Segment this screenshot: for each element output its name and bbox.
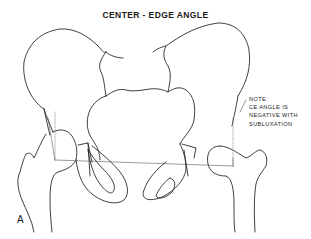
left-femur (18, 130, 77, 232)
figure-title: CENTER - EDGE ANGLE (0, 10, 311, 20)
right-obturator-outer (143, 144, 186, 200)
note-line-4: SUBLUXATION (249, 120, 298, 128)
left-obturator-foramen (88, 150, 114, 193)
left-center-edge-line (48, 118, 55, 160)
note-line-3: NEGATIVE WITH (249, 111, 298, 119)
sacrum-left-edge (87, 96, 106, 160)
sacrum-top-edge (106, 88, 195, 144)
left-obturator-outer (76, 146, 127, 203)
panel-label: A (17, 214, 24, 225)
right-pubic-block (182, 144, 196, 176)
note-line-1: NOTE: (249, 95, 298, 103)
left-iliac-wing (24, 29, 123, 109)
horizontal-reference-line (55, 160, 233, 166)
diagram-canvas: CENTER - EDGE ANGLE NOTE: CE ANGLE IS NE… (0, 0, 311, 239)
note-line-2: CE ANGLE IS (249, 103, 298, 111)
right-femur (208, 146, 267, 232)
right-iliac-wing (153, 23, 250, 126)
figure-note: NOTE: CE ANGLE IS NEGATIVE WITH SUBLUXAT… (249, 95, 298, 128)
note-leader-line (240, 100, 246, 112)
